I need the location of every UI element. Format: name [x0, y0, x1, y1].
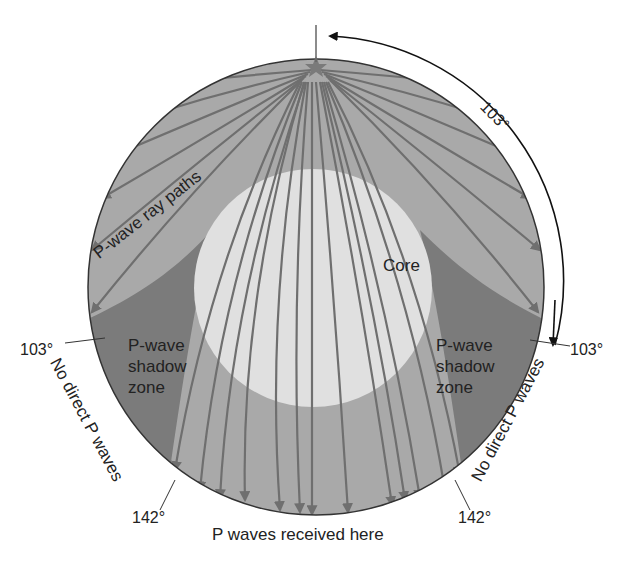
earth-diagram: [0, 0, 629, 567]
angle-left-103: 103°: [20, 340, 53, 360]
angle-right-142: 142°: [458, 508, 491, 528]
shadow-zone-right-label: P-wave shadow zone: [436, 335, 495, 398]
shadow-zone-left-label: P-wave shadow zone: [128, 335, 187, 398]
core-label: Core: [383, 256, 420, 276]
angle-left-142: 142°: [132, 508, 165, 528]
received-label: P waves received here: [212, 525, 384, 545]
angle-right-103: 103°: [570, 340, 603, 360]
